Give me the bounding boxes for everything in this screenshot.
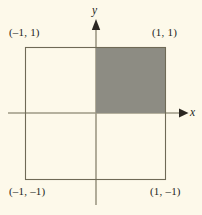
y-axis-label: y <box>92 5 97 17</box>
corner-label-bottom-left: (–1, –1) <box>9 186 45 197</box>
x-axis-label: x <box>190 107 195 119</box>
coordinate-plane-figure: (–1, 1) (1, 1) (–1, –1) (1, –1) y x <box>0 0 202 215</box>
arrow-up-icon <box>92 19 100 30</box>
corner-label-top-left: (–1, 1) <box>9 27 40 38</box>
arrow-right-icon <box>179 109 189 118</box>
corner-label-bottom-right: (1, –1) <box>150 186 181 197</box>
shaded-quadrant-region <box>96 47 166 113</box>
corner-label-top-right: (1, 1) <box>152 27 177 38</box>
